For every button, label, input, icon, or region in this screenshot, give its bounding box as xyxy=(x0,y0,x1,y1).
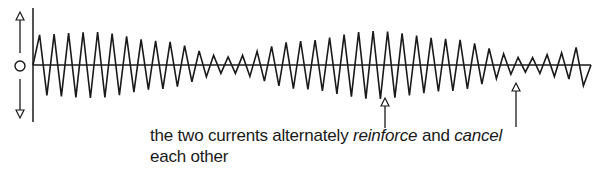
caption: the two currents alternately reinforce a… xyxy=(150,125,590,167)
caption-line-2: each other xyxy=(150,147,228,166)
cancel-pointer-arrow-icon xyxy=(512,83,520,127)
caption-text-2: and xyxy=(417,126,454,145)
up-arrow-icon xyxy=(16,12,24,53)
caption-reinforce: reinforce xyxy=(353,126,417,145)
amplitude-indicator xyxy=(15,12,25,118)
reinforce-pointer-arrow-icon xyxy=(381,98,389,128)
caption-text-1: the two currents alternately xyxy=(150,126,353,145)
caption-cancel: cancel xyxy=(454,126,502,145)
zero-circle-icon xyxy=(15,61,25,71)
down-arrow-icon xyxy=(16,79,24,118)
